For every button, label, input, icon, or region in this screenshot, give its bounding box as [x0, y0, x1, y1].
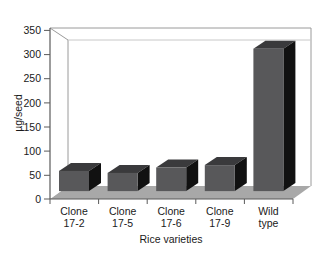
chart-canvas: 350 300 250 200 150 100 50 0 µg/seed [0, 0, 321, 255]
x-tick-label-line1: Clone [109, 205, 137, 217]
x-tick-label-line1: Clone [60, 205, 88, 217]
x-tick-label-line1: Wild [258, 205, 279, 217]
bar-group [59, 163, 101, 191]
x-tick-label-line2: 17-6 [161, 217, 182, 229]
bar-side-face [283, 41, 295, 191]
y-tick-label: 200 [23, 97, 41, 109]
bar-front-face [59, 171, 89, 191]
y-tick-label: 100 [23, 145, 41, 157]
bar-group [108, 165, 150, 191]
x-tick-label-line1: Clone [157, 205, 185, 217]
y-tick-label: 150 [23, 121, 41, 133]
y-tick-label: 350 [23, 24, 41, 36]
y-tick-label: 300 [23, 48, 41, 60]
x-tick-label-line1: Clone [206, 205, 234, 217]
bar-group [253, 41, 295, 191]
y-tick-label: 50 [29, 169, 41, 181]
bar-front-face [205, 165, 235, 191]
bar-front-face [108, 173, 138, 191]
bar-chart-figure: 350 300 250 200 150 100 50 0 µg/seed [0, 0, 321, 255]
x-axis-ticks [50, 199, 293, 204]
y-axis-tick-labels: 350 300 250 200 150 100 50 0 [23, 24, 41, 205]
bar-front-face [156, 168, 186, 192]
x-axis-category-labels: Clone 17-2 Clone 17-5 Clone 17-6 Clone 1… [60, 205, 278, 229]
x-axis-title: Rice varieties [139, 233, 202, 245]
bar-front-face [253, 49, 283, 191]
x-tick-label-line2: 17-9 [209, 217, 230, 229]
y-tick-label: 0 [35, 193, 41, 205]
bar-group [205, 157, 247, 191]
x-tick-label-line2: 17-5 [112, 217, 133, 229]
y-axis-title: µg/seed [12, 94, 24, 132]
x-tick-label-line2: type [258, 217, 278, 229]
y-tick-label: 250 [23, 72, 41, 84]
bar-group [156, 160, 198, 192]
y-axis-ticks [44, 30, 50, 199]
x-tick-label-line2: 17-2 [63, 217, 84, 229]
